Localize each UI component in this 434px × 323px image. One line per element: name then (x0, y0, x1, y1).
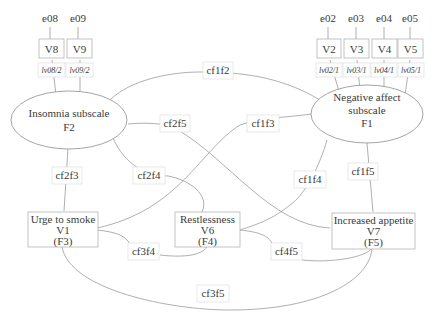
error-e08: e08 (42, 12, 58, 24)
cov-cf2f3: cf2f3 (55, 169, 79, 181)
cov-cf2f4: cf2f4 (137, 169, 161, 181)
factor-f1-code: F1 (361, 117, 373, 129)
error-e05: e05 (402, 12, 418, 24)
loading-lv09f2: lv09/2 (70, 66, 90, 75)
cov-cf1f4: cf1f4 (298, 173, 322, 185)
cov-cf1f3: cf1f3 (251, 117, 275, 129)
indicator-v9: V9 (73, 43, 87, 55)
cov-cf1f5: cf1f5 (351, 165, 375, 177)
cov-cf3f4: cf3f4 (132, 245, 156, 257)
factor-f1-name: Negative affect (333, 91, 400, 103)
factor-f2-code: F2 (63, 121, 75, 133)
cov-cf3f5: cf3f5 (201, 287, 225, 299)
cov-cf1f2: cf1f2 (206, 64, 229, 76)
factor-f1: Negative affect subscale F1 (311, 85, 423, 143)
indicator-v5: V5 (404, 43, 418, 55)
indicator-v2: V2 (322, 43, 335, 55)
observed-v6: Restlessness V6 (F4) (175, 212, 240, 248)
v1-factor: (F3) (54, 235, 73, 248)
v7-factor: (F5) (364, 236, 383, 249)
error-e02: e02 (320, 12, 336, 24)
loading-lv05f1: lv05/1 (401, 66, 421, 75)
cov-cf2f5: cf2f5 (163, 117, 187, 129)
error-e04: e04 (376, 12, 392, 24)
loading-lv04f1: lv04/1 (374, 66, 394, 75)
factor-f2-name: Insomnia subscale (29, 107, 110, 119)
error-terms: e08 e09 e02 e03 e04 e05 (42, 12, 418, 24)
error-e09: e09 (70, 12, 86, 24)
sem-path-diagram: e08 e09 e02 e03 e04 e05 V8 V9 V2 V3 V4 V… (0, 0, 434, 323)
factor-f2: Insomnia subscale F2 (11, 91, 127, 149)
indicator-v8: V8 (45, 43, 59, 55)
loading-lv02f1: lv02/1 (319, 66, 339, 75)
cov-cf4f5: cf4f5 (275, 245, 299, 257)
indicator-v3: V3 (350, 43, 364, 55)
observed-v7: Increased appetite V7 (F5) (332, 213, 415, 249)
v6-factor: (F4) (198, 235, 217, 248)
error-e03: e03 (348, 12, 364, 24)
indicator-v4: V4 (378, 43, 392, 55)
loading-lv03f1: lv03/1 (347, 66, 367, 75)
loading-lv08f2: lv08/2 (42, 66, 62, 75)
indicator-boxes: V8 V9 V2 V3 V4 V5 (39, 39, 423, 58)
factor-f1-name-2: subscale (348, 104, 385, 116)
observed-v1: Urge to smoke V1 (F3) (28, 212, 98, 248)
